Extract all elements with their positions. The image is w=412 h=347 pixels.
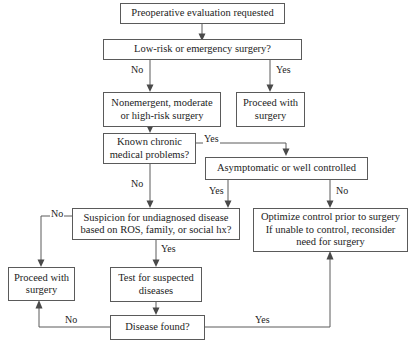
node-label-line2: medical problems?	[107, 149, 192, 161]
arrowhead-suspicion-top	[147, 201, 154, 209]
arrowhead-suspicion-right	[225, 201, 232, 209]
arrowhead-nonemergent	[147, 85, 154, 93]
node-label-line2: surgery	[12, 284, 71, 296]
node-label-line1: Proceed with	[240, 97, 301, 109]
node-label-line2: surgery	[240, 110, 301, 122]
node-asymptomatic-or-well-controlled[interactable]: Asymptomatic or well controlled	[205, 157, 368, 180]
node-suspicion-undiagnosed-disease[interactable]: Suspicion for undiagnosed disease based …	[72, 208, 240, 240]
node-label: Asymptomatic or well controlled	[209, 162, 364, 174]
arrowhead-test	[153, 260, 160, 268]
node-label-line2: diseases	[114, 285, 198, 297]
node-label: Disease found?	[114, 321, 201, 333]
edge-label-suspicion-yes: Yes	[160, 243, 177, 254]
edge-label-lowrisk-no: No	[130, 64, 144, 75]
edge-label-asymptomatic-yes: Yes	[208, 185, 225, 196]
node-nonemergent-moderate-high-risk[interactable]: Nonemergent, moderate or high-risk surge…	[103, 92, 221, 127]
node-label-line1: Nonemergent, moderate	[107, 97, 217, 109]
node-preoperative-evaluation[interactable]: Preoperative evaluation requested	[120, 3, 285, 24]
edge-suspicion-no	[41, 216, 72, 262]
edge-label-lowrisk-yes: Yes	[275, 64, 292, 75]
node-test-for-suspected-diseases[interactable]: Test for suspected diseases	[110, 267, 202, 302]
arrowhead-proceed-left-bottom	[36, 300, 43, 309]
node-label-line2: based on ROS, family, or social hx?	[76, 224, 236, 236]
edge-label-suspicion-no: No	[50, 208, 64, 219]
edge-label-chronic-yes: Yes	[203, 133, 220, 144]
arrowhead-proceed-left-top	[38, 260, 45, 268]
edge-label-asymptomatic-no: No	[335, 185, 349, 196]
edge-label-disease-no: No	[64, 314, 78, 325]
arrowhead-optimize	[327, 201, 334, 209]
node-label-line1: Proceed with	[12, 272, 71, 284]
node-label-line1: Suspicion for undiagnosed disease	[76, 212, 236, 224]
edge-label-disease-yes: Yes	[254, 314, 271, 325]
node-low-risk-or-emergency[interactable]: Low-risk or emergency surgery?	[103, 39, 302, 60]
node-label-line1: Known chronic	[107, 136, 192, 148]
node-label-line1: Optimize control prior to surgery	[257, 211, 404, 223]
edge-chronic-yes	[196, 143, 286, 150]
arrowhead-asymptomatic	[283, 149, 290, 157]
node-proceed-with-surgery-top[interactable]: Proceed with surgery	[236, 92, 305, 127]
arrowhead-optimize-bottom	[327, 251, 334, 260]
node-proceed-with-surgery-left[interactable]: Proceed with surgery	[8, 267, 75, 301]
node-disease-found[interactable]: Disease found?	[110, 315, 205, 340]
node-label-line2: or high-risk surgery	[107, 110, 217, 122]
node-label-line3: need for surgery	[257, 236, 404, 248]
node-optimize-control-prior-to-surgery[interactable]: Optimize control prior to surgery If una…	[253, 208, 408, 252]
node-label: Low-risk or emergency surgery?	[107, 43, 298, 55]
flowchart-canvas: Preoperative evaluation requested Low-ri…	[0, 0, 412, 347]
arrowhead-proceed-top	[267, 85, 274, 93]
edge-label-chronic-no: No	[130, 178, 144, 189]
node-label-line1: Test for suspected	[114, 272, 198, 284]
arrowhead-disease	[153, 308, 160, 316]
node-known-chronic-medical-problems[interactable]: Known chronic medical problems?	[103, 133, 196, 164]
node-label: Preoperative evaluation requested	[124, 7, 281, 19]
node-label-line2: If unable to control, reconsider	[257, 224, 404, 236]
